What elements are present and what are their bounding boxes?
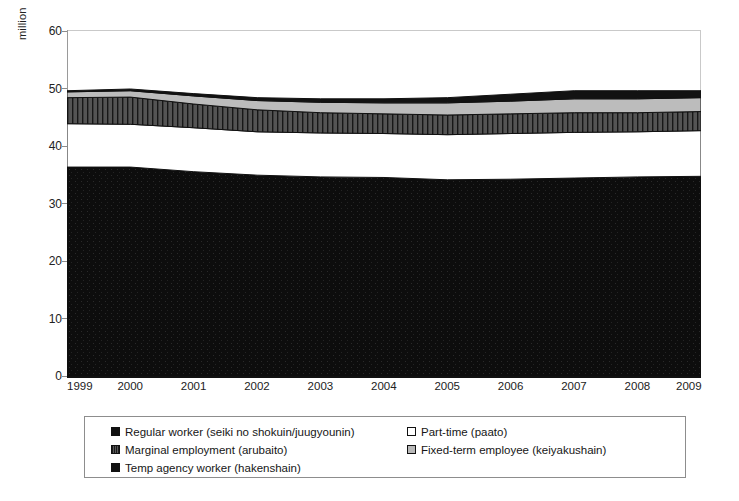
y-tick-label: 60: [28, 25, 62, 37]
y-axis-tick-labels: 60 50 40 30 20 10 0: [22, 0, 62, 400]
x-tick-label: 2007: [561, 381, 587, 393]
legend-swatch-icon: [407, 427, 416, 436]
legend-swatch-icon: [111, 427, 120, 436]
y-tick-label: 30: [28, 198, 62, 210]
y-tick-label: 20: [28, 255, 62, 267]
legend-item-label: Temp agency worker (hakenshain): [125, 462, 301, 474]
x-tick-label: 2002: [244, 381, 270, 393]
figure-root: million 60 50 40 30 20 10 0: [0, 0, 739, 501]
legend-column-left: Regular worker (seiki no shokuin/juugyou…: [111, 423, 354, 477]
legend-item: Fixed-term employee (keiyakushain): [407, 441, 606, 458]
x-tick-label: 2009: [676, 381, 702, 393]
y-tick-label: 40: [28, 140, 62, 152]
legend-item-label: Marginal employment (arubaito): [125, 444, 287, 456]
legend-item-label: Regular worker (seiki no shokuin/juugyou…: [125, 426, 354, 438]
area-series: [67, 167, 701, 377]
legend-item: Part-time (paato): [407, 423, 606, 440]
x-tick-label: 2005: [434, 381, 460, 393]
legend-column-right: Part-time (paato)Fixed-term employee (ke…: [407, 423, 606, 459]
stacked-area-chart: million 60 50 40 30 20 10 0: [0, 0, 739, 400]
x-tick-label: 2000: [117, 381, 143, 393]
legend-item: Marginal employment (arubaito): [111, 441, 354, 458]
legend-item: Temp agency worker (hakenshain): [111, 459, 354, 476]
chart-legend: Regular worker (seiki no shokuin/juugyou…: [84, 416, 686, 478]
x-tick-label: 2004: [371, 381, 397, 393]
legend-item-label: Fixed-term employee (keiyakushain): [421, 444, 606, 456]
x-tick-label: 2006: [498, 381, 524, 393]
legend-item: Regular worker (seiki no shokuin/juugyou…: [111, 423, 354, 440]
y-tick-label: 0: [28, 370, 62, 382]
legend-swatch-icon: [111, 463, 120, 472]
y-tick-label: 50: [28, 83, 62, 95]
legend-swatch-icon: [407, 445, 416, 454]
x-tick-label: 2003: [308, 381, 334, 393]
stacked-area-series-group: [67, 30, 701, 377]
plot-frame-bottom-axis: [67, 376, 701, 378]
x-tick-label: 1999: [67, 381, 93, 393]
legend-item-label: Part-time (paato): [421, 426, 507, 438]
y-tick-label: 10: [28, 313, 62, 325]
x-tick-label: 2008: [625, 381, 651, 393]
legend-swatch-icon: [111, 445, 120, 454]
x-tick-label: 2001: [181, 381, 207, 393]
